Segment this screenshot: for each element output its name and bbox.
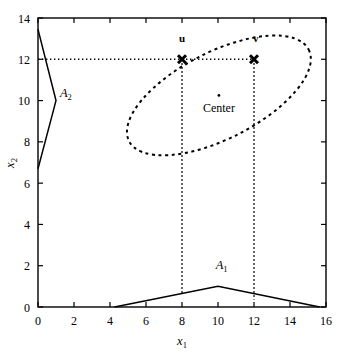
x-tick-label: 8	[179, 314, 185, 328]
y-tick-label: 14	[18, 12, 30, 26]
y-tick-label: 8	[24, 135, 30, 149]
chart-figure: 0246810121416 02468101214 uvCenterA1A2 x…	[0, 0, 346, 353]
y-tick-label: 10	[18, 94, 30, 108]
y-tick-label: 12	[18, 53, 30, 67]
center-label: Center	[203, 101, 235, 115]
y-tick-label: 4	[24, 218, 30, 232]
y-tick-label: 0	[24, 301, 30, 315]
chart-background	[0, 0, 346, 353]
x-tick-label: 16	[320, 314, 332, 328]
x-tick-label: 2	[71, 314, 77, 328]
x-tick-label: 0	[35, 314, 41, 328]
marker-center	[218, 94, 221, 97]
v-label: v	[253, 32, 259, 44]
x-tick-label: 12	[248, 314, 260, 328]
x-tick-label: 14	[284, 314, 296, 328]
scatter-plot-canvas: 0246810121416 02468101214 uvCenterA1A2 x…	[0, 0, 346, 353]
y-tick-label: 2	[24, 259, 30, 273]
y-tick-label: 6	[24, 177, 30, 191]
x-tick-label: 6	[143, 314, 149, 328]
x-tick-label: 4	[107, 314, 113, 328]
x-tick-label: 10	[212, 314, 224, 328]
u-label: u	[179, 32, 185, 44]
